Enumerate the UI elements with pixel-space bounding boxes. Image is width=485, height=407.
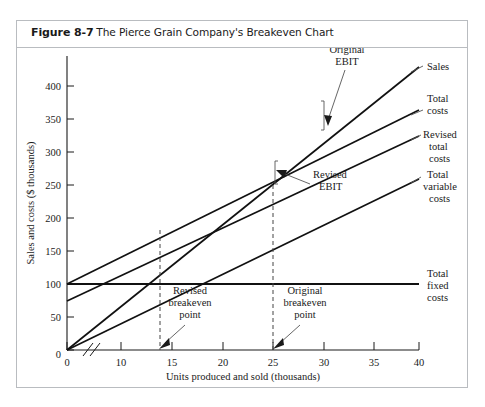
original-be-label-line3: point <box>294 309 316 320</box>
original-be-label-line2: breakeven <box>283 297 327 308</box>
y-tick-50: 50 <box>51 312 62 323</box>
series-label-total-costs-line1: Total <box>427 93 449 104</box>
series-label-revised-total-line2: total <box>429 141 448 152</box>
x-axis-tick-labels: 0 10 15 20 25 30 35 40 <box>64 357 424 368</box>
x-tick-10: 10 <box>116 357 127 368</box>
series-label-total-fixed-line1: Total <box>427 268 449 279</box>
y-tick-400: 400 <box>45 81 61 92</box>
figure-frame: Figure 8-7 The Pierce Grain Company's Br… <box>16 20 468 388</box>
y-tick-300: 300 <box>45 147 61 158</box>
series-label-revised-total-line3: costs <box>429 153 450 164</box>
revised-be-label-line2: breakeven <box>168 297 212 308</box>
y-tick-100: 100 <box>45 279 61 290</box>
x-axis-title: Units produced and sold (thousands) <box>166 371 320 383</box>
series-label-total-fixed-line2: fixed <box>427 280 449 291</box>
x-tick-35: 35 <box>369 357 380 368</box>
annotation-original-ebit: Original EBIT <box>321 48 365 130</box>
original-ebit-arrow-icon <box>324 115 332 126</box>
series-label-total-variable-line2: variable <box>423 181 457 192</box>
series-label-total-costs-line2: costs <box>427 105 448 116</box>
series-label-total-variable-line1: Total <box>427 169 449 180</box>
series-label-total-variable-costs-group: Total variable costs <box>411 169 457 204</box>
series-label-total-fixed-costs-group: Total fixed costs <box>427 268 449 303</box>
x-axis <box>67 342 419 350</box>
y-tick-250: 250 <box>45 180 61 191</box>
chart-svg: 400 350 300 250 200 150 100 50 0 Sales a… <box>17 48 469 388</box>
y-tick-0: 0 <box>56 349 61 360</box>
revised-be-arrow-icon <box>159 338 170 349</box>
revised-be-label-line3: point <box>179 309 201 320</box>
annotation-original-breakeven: Original breakeven point <box>273 285 327 349</box>
x-tick-25: 25 <box>268 357 279 368</box>
x-tick-20: 20 <box>218 357 229 368</box>
original-ebit-label-line2: EBIT <box>335 56 359 67</box>
breakeven-chart: 400 350 300 250 200 150 100 50 0 Sales a… <box>17 48 467 388</box>
y-axis <box>67 56 74 350</box>
series-label-sales-group: Sales <box>411 61 449 72</box>
series-label-total-costs-group: Total costs <box>411 93 449 116</box>
series-label-total-variable-line3: costs <box>429 193 450 204</box>
revised-ebit-label-line1: Revised <box>313 169 348 180</box>
x-tick-0: 0 <box>64 357 69 368</box>
series-label-revised-total-costs-group: Revised total costs <box>411 129 458 164</box>
figure-title: Figure 8-7 The Pierce Grain Company's Br… <box>31 26 334 39</box>
original-be-label-line1: Original <box>288 285 323 296</box>
y-tick-150: 150 <box>45 246 61 257</box>
revised-ebit-label-line2: EBIT <box>319 181 343 192</box>
y-axis-tick-labels: 400 350 300 250 200 150 100 50 0 <box>45 81 61 360</box>
x-tick-40: 40 <box>414 357 425 368</box>
original-be-arrow-icon <box>273 338 284 349</box>
series-label-sales: Sales <box>427 61 449 72</box>
x-tick-30: 30 <box>319 357 330 368</box>
series-line-total-costs <box>67 110 419 284</box>
y-tick-200: 200 <box>45 213 61 224</box>
y-axis-title: Sales and costs ($ thousands) <box>25 141 37 265</box>
x-tick-15: 15 <box>167 357 178 368</box>
original-ebit-label-line1: Original <box>330 48 365 55</box>
series-label-revised-total-line1: Revised <box>423 129 458 140</box>
series-label-total-fixed-line3: costs <box>427 292 448 303</box>
series-line-total-variable-costs <box>67 179 419 350</box>
annotation-revised-breakeven: Revised breakeven point <box>159 285 212 349</box>
revised-be-label-line1: Revised <box>173 285 208 296</box>
y-tick-350: 350 <box>45 114 61 125</box>
figure-number: Figure 8-7 <box>31 26 94 39</box>
figure-header: Figure 8-7 The Pierce Grain Company's Br… <box>17 21 467 48</box>
series-line-sales <box>67 67 419 350</box>
figure-title-text: The Pierce Grain Company's Breakeven Cha… <box>96 26 333 38</box>
series-line-revised-total-costs <box>67 136 419 301</box>
